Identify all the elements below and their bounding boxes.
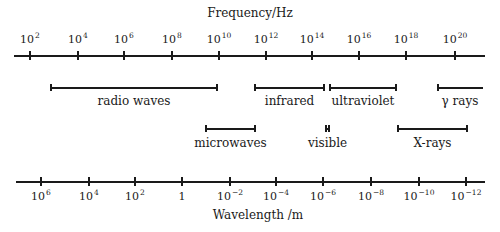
- wavelength-axis-title: Wavelength /m: [213, 208, 303, 222]
- band-label-infrared: infrared: [265, 94, 314, 108]
- frequency-tick-label: 1020: [443, 33, 468, 46]
- wavelength-tick-label: 10−6: [310, 190, 336, 203]
- band-cap-right: [216, 84, 218, 91]
- wavelength-tick-label: 104: [79, 190, 99, 203]
- tick-exponent: 10: [222, 31, 232, 40]
- tick-exponent: −6: [325, 188, 336, 197]
- wavelength-tick-label: 10−10: [404, 190, 435, 203]
- band-cap-left: [397, 125, 399, 132]
- frequency-tick-label: 104: [68, 33, 88, 46]
- tick-exponent: 4: [83, 31, 88, 40]
- wavelength-tick-label: 102: [125, 190, 145, 203]
- wavelength-tick-label: 10−8: [358, 190, 384, 203]
- band-bar-rays: [437, 87, 483, 89]
- frequency-tick: [454, 51, 456, 60]
- wavelength-tick: [181, 177, 183, 186]
- band-label-x-rays: X-rays: [414, 136, 452, 150]
- band-cap-left: [437, 84, 439, 91]
- frequency-tick: [358, 51, 360, 60]
- wavelength-tick: [370, 177, 372, 186]
- wavelength-tick: [88, 177, 90, 186]
- band-label-microwaves: microwaves: [194, 136, 266, 150]
- frequency-axis-line: [14, 55, 485, 57]
- band-label-rays: γ rays: [442, 94, 479, 108]
- band-bar-radio-waves: [50, 87, 218, 89]
- frequency-tick: [77, 51, 79, 60]
- tick-exponent: 12: [269, 31, 279, 40]
- tick-exponent: 20: [458, 31, 468, 40]
- frequency-axis-title: Frequency/Hz: [207, 6, 293, 20]
- tick-exponent: 14: [315, 31, 325, 40]
- frequency-tick-label: 1018: [394, 33, 419, 46]
- wavelength-tick-label: 10−2: [217, 190, 243, 203]
- tick-exponent: 4: [94, 188, 99, 197]
- frequency-tick: [405, 51, 407, 60]
- frequency-tick-label: 1012: [254, 33, 279, 46]
- wavelength-tick-label: 106: [31, 190, 51, 203]
- band-label-visible: visible: [308, 136, 347, 150]
- frequency-tick: [29, 51, 31, 60]
- frequency-tick-label: 108: [162, 33, 182, 46]
- frequency-tick: [171, 51, 173, 60]
- wavelength-tick: [322, 177, 324, 186]
- band-cap-left: [254, 84, 256, 91]
- wavelength-tick: [465, 177, 467, 186]
- wavelength-tick-label: 10−4: [263, 190, 289, 203]
- band-cap-left: [205, 125, 207, 132]
- wavelength-tick: [229, 177, 231, 186]
- band-label-radio-waves: radio waves: [98, 94, 171, 108]
- frequency-tick-label: 106: [114, 33, 134, 46]
- wavelength-tick: [134, 177, 136, 186]
- wavelength-tick: [275, 177, 277, 186]
- tick-exponent: −10: [419, 188, 435, 197]
- tick-exponent: 6: [129, 31, 134, 40]
- band-cap-left: [329, 84, 331, 91]
- band-cap-left: [50, 84, 52, 91]
- band-cap-left: [325, 125, 327, 132]
- wavelength-axis-line: [16, 181, 485, 183]
- wavelength-tick-label: 10−12: [451, 190, 482, 203]
- tick-exponent: −4: [278, 188, 289, 197]
- frequency-tick: [265, 51, 267, 60]
- band-cap-right: [395, 84, 397, 91]
- frequency-tick-label: 1016: [347, 33, 372, 46]
- band-label-ultraviolet: ultraviolet: [332, 94, 395, 108]
- frequency-tick-label: 1014: [300, 33, 325, 46]
- tick-exponent: 2: [35, 31, 40, 40]
- tick-exponent: −2: [232, 188, 243, 197]
- tick-exponent: 18: [409, 31, 419, 40]
- wavelength-tick: [40, 177, 42, 186]
- tick-exponent: 6: [46, 188, 51, 197]
- frequency-tick: [311, 51, 313, 60]
- band-cap-right: [254, 125, 256, 132]
- band-bar-infrared: [254, 87, 325, 89]
- band-bar-microwaves: [205, 128, 256, 130]
- frequency-tick-label: 102: [20, 33, 40, 46]
- band-bar-x-rays: [397, 128, 468, 130]
- tick-exponent: −8: [373, 188, 384, 197]
- tick-exponent: 2: [140, 188, 145, 197]
- band-bar-visible: [325, 128, 330, 130]
- frequency-tick: [218, 51, 220, 60]
- band-cap-right: [323, 84, 325, 91]
- band-bar-ultraviolet: [329, 87, 397, 89]
- frequency-tick-label: 1010: [207, 33, 232, 46]
- band-cap-right: [466, 125, 468, 132]
- tick-exponent: −12: [466, 188, 482, 197]
- wavelength-tick: [418, 177, 420, 186]
- band-cap-right: [328, 125, 330, 132]
- tick-exponent: 8: [177, 31, 182, 40]
- tick-exponent: 16: [362, 31, 372, 40]
- frequency-tick: [123, 51, 125, 60]
- wavelength-tick-label: 1: [179, 190, 186, 203]
